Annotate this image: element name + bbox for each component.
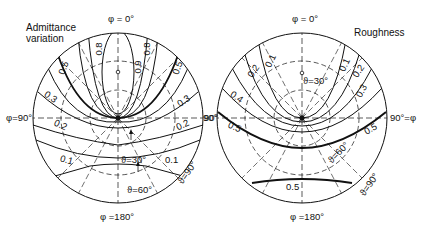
left-contour-0.9: 0.9 bbox=[133, 60, 143, 73]
right-contour-0.5-bottom: 0.5 bbox=[286, 182, 299, 192]
left-contour-0.8-right: 0.8 bbox=[142, 42, 152, 55]
left-theta-60-label: ϑ=60° bbox=[127, 185, 152, 195]
right-phi-top-label: φ = 0° bbox=[292, 14, 318, 24]
left-title-line2: variation bbox=[26, 33, 64, 44]
left-theta-30-label: ϑ=30° bbox=[121, 155, 146, 165]
right-phi-right-label: 90°=φ bbox=[390, 113, 416, 123]
left-contour-0.8-left: 0.8 bbox=[94, 42, 104, 55]
right-theta-30-label: ϑ=30° bbox=[303, 76, 328, 86]
right-phi-left-label: 90° bbox=[203, 113, 217, 123]
left-phi-top-label: φ = 0° bbox=[108, 14, 134, 24]
left-contour-0.1-right: 0.1 bbox=[165, 155, 178, 165]
left-title-line1: Admittance bbox=[26, 22, 76, 33]
left-phi-left-label: φ=90° bbox=[6, 113, 32, 123]
right-title: Roughness bbox=[354, 27, 405, 38]
right-phi-bottom-label: φ =180° bbox=[290, 212, 324, 222]
left-phi-bottom-label: φ =180° bbox=[100, 212, 134, 222]
